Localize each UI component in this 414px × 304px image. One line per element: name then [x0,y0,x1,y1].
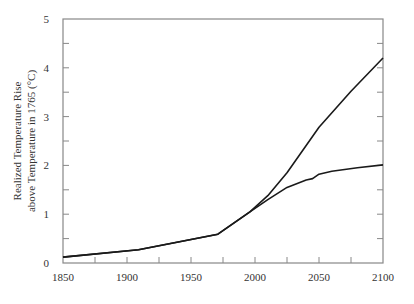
data-series [63,58,383,257]
y-axis-label-line2: above Temperature in 1765 (°C) [25,70,38,212]
temperature-chart: 185019001950200020502100 012345 Realized… [0,0,414,304]
upper-trajectory-line [63,58,383,257]
x-axis-tick-labels: 185019001950200020502100 [52,271,395,283]
x-tick-label: 1900 [116,271,139,283]
y-tick-label: 3 [44,111,50,123]
x-tick-label: 1850 [52,271,75,283]
x-tick-label: 2050 [308,271,331,283]
y-axis-tick-labels: 012345 [44,13,50,269]
x-tick-label: 2000 [244,271,267,283]
y-tick-label: 4 [44,62,50,74]
y-tick-label: 0 [44,257,50,269]
x-tick-label: 1950 [180,271,203,283]
x-tick-label: 2100 [372,271,395,283]
y-tick-label: 1 [44,208,50,220]
lower-trajectory-line [63,165,383,257]
y-axis-label-line1: Realized Temperature Rise [11,82,23,201]
y-tick-label: 5 [44,13,50,25]
plot-border [63,19,383,263]
y-tick-label: 2 [44,159,50,171]
plot-frame [63,19,383,263]
